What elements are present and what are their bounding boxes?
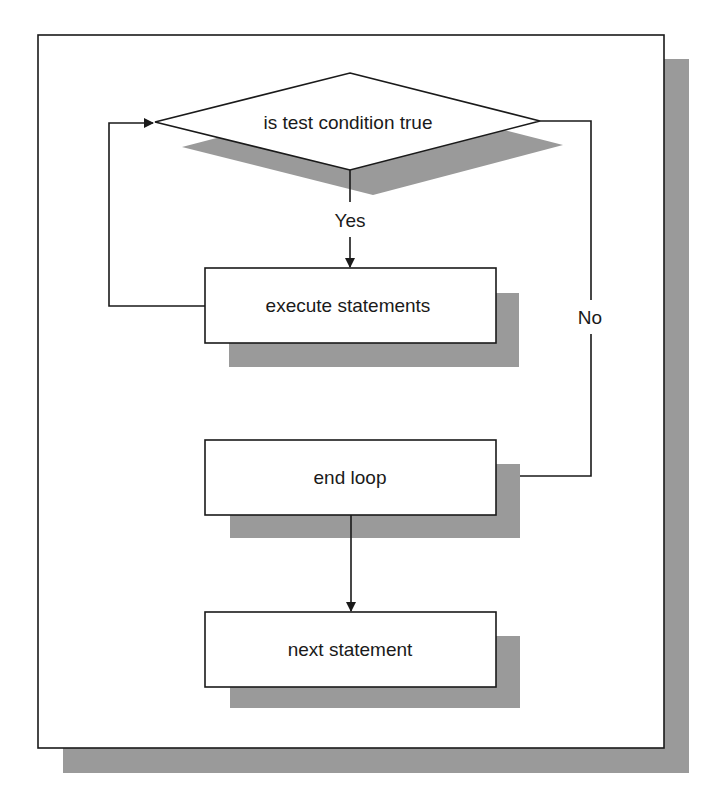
no-label: No <box>578 307 602 328</box>
decision-label: is test condition true <box>264 112 433 133</box>
next-label: next statement <box>288 639 413 660</box>
flowchart-canvas: is test condition true Yes execute state… <box>0 0 723 800</box>
end-loop-label: end loop <box>314 467 387 488</box>
yes-label: Yes <box>335 210 366 231</box>
execute-label: execute statements <box>266 295 431 316</box>
